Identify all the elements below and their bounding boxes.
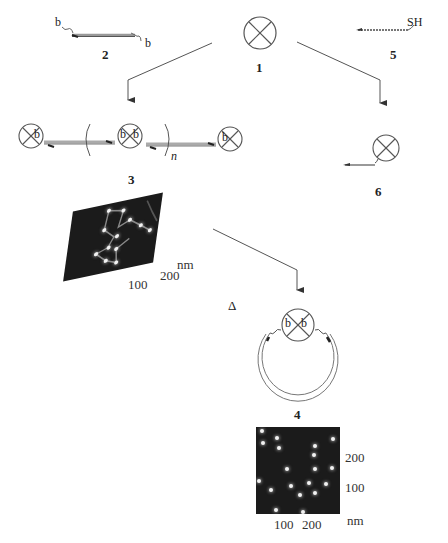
afm4-dot: [330, 466, 334, 470]
afm4-dot: [307, 481, 311, 485]
afm4-dot: [260, 429, 264, 433]
afm4-dot: [324, 482, 328, 486]
heat-symbol: Δ: [228, 298, 236, 314]
strand-icon-2: [62, 27, 141, 41]
compound-1-number: 1: [256, 60, 263, 76]
afm4-x-tick-200: 200: [302, 517, 322, 533]
compound-5-number: 5: [390, 47, 397, 63]
afm4-dot: [257, 479, 261, 483]
compound-4-b1: b: [285, 316, 291, 331]
afm4-dot: [261, 441, 265, 445]
compound-2-left-b: b: [55, 15, 61, 30]
arrow-3-to-4: [213, 229, 297, 290]
afm3-tick-100: 100: [128, 277, 148, 293]
afm4-dot: [313, 467, 317, 471]
arrow-1-to-6: [297, 42, 380, 103]
afm4-dot: [312, 453, 316, 457]
compound-4-number: 4: [294, 407, 301, 423]
afm4-dot: [289, 484, 293, 488]
afm4-dot: [285, 467, 289, 471]
afm4-dot: [298, 493, 302, 497]
compound-3-repeat-n: n: [171, 149, 177, 164]
compound-3-b1: b: [34, 127, 40, 142]
afm4-dot: [274, 508, 278, 512]
afm4-y-tick-100: 100: [345, 480, 365, 496]
afm4-unit-label: nm: [347, 513, 364, 529]
compound-2-right-b: b: [145, 36, 151, 51]
compound-6-number: 6: [375, 184, 382, 200]
afm4-dot: [331, 437, 335, 441]
compound-3-b2: b: [120, 127, 126, 142]
compound-5-sh-label: SH: [407, 15, 422, 30]
thiol-strand-icon-5: [356, 25, 414, 31]
compound-2-number: 2: [102, 47, 109, 63]
compound-3-b4: b: [222, 130, 228, 145]
compound-4-b2: b: [301, 316, 307, 331]
afm4-dot: [313, 444, 317, 448]
compound-3-number: 3: [128, 172, 135, 188]
monofunctional-particle-icon-6: [343, 135, 399, 166]
afm4-x-tick-100: 100: [274, 517, 294, 533]
afm4-y-tick-200: 200: [345, 450, 365, 466]
polymer-chain-icon-3: [19, 124, 242, 156]
cyclic-dimer-icon-4: [258, 309, 338, 401]
afm4-dot: [275, 436, 279, 440]
afm3-tick-200: 200: [160, 268, 180, 284]
compound-3-b3: b: [133, 127, 139, 142]
arrow-1-to-3: [128, 43, 212, 100]
afm-image-compound-4: [256, 427, 340, 514]
afm4-dot: [301, 510, 305, 514]
afm4-dot: [277, 446, 281, 450]
crossed-circle-icon-1: [244, 17, 276, 49]
afm4-dot: [313, 491, 317, 495]
afm4-dot: [269, 488, 273, 492]
